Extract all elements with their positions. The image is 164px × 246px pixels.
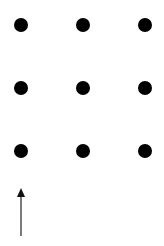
grid-dot-r2-c3 [138, 81, 152, 95]
grid-dot-r2-c2 [76, 81, 90, 95]
grid-dot-r1-c3 [138, 18, 152, 32]
grid-dot-r3-c1 [14, 144, 28, 158]
dot-grid-diagram [0, 0, 164, 246]
grid-dot-r3-c2 [76, 144, 90, 158]
grid-dot-r1-c2 [76, 18, 90, 32]
up-arrow-icon [17, 188, 25, 236]
grid-dot-r3-c3 [138, 144, 152, 158]
grid-dot-r2-c1 [14, 81, 28, 95]
dot-grid [14, 18, 152, 158]
grid-dot-r1-c1 [14, 18, 28, 32]
arrow-head [17, 188, 25, 197]
